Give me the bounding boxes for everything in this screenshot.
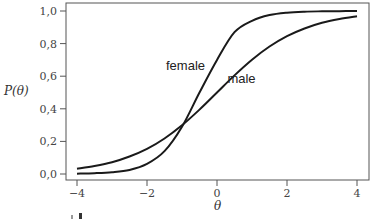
y-tick-label: 1,0 [40,5,58,18]
irt-curve-chart: 0,00,20,40,60,81,0 −4−2024 femalemale P(… [0,0,371,219]
male-curve [77,16,357,169]
y-tick-label: 0,6 [40,70,58,83]
x-tick-label: −4 [69,187,85,200]
cropped-text-fragment [71,213,82,219]
curves [77,11,357,174]
male-curve-label: male [227,71,255,86]
x-tick-label: 2 [284,187,291,200]
y-tick-label: 0,2 [40,135,58,148]
x-tick-label: 4 [354,187,361,200]
y-axis-ticks: 0,00,20,40,60,81,0 [40,5,67,181]
x-tick-label: −2 [139,187,155,200]
female-curve-label: female [166,58,205,73]
x-axis-ticks: −4−2024 [69,180,361,200]
y-axis-title: P(θ) [3,84,29,98]
y-tick-label: 0,4 [40,103,58,116]
x-axis-title: θ [214,199,222,213]
y-tick-label: 0,8 [40,38,58,51]
y-tick-label: 0,0 [40,168,58,181]
